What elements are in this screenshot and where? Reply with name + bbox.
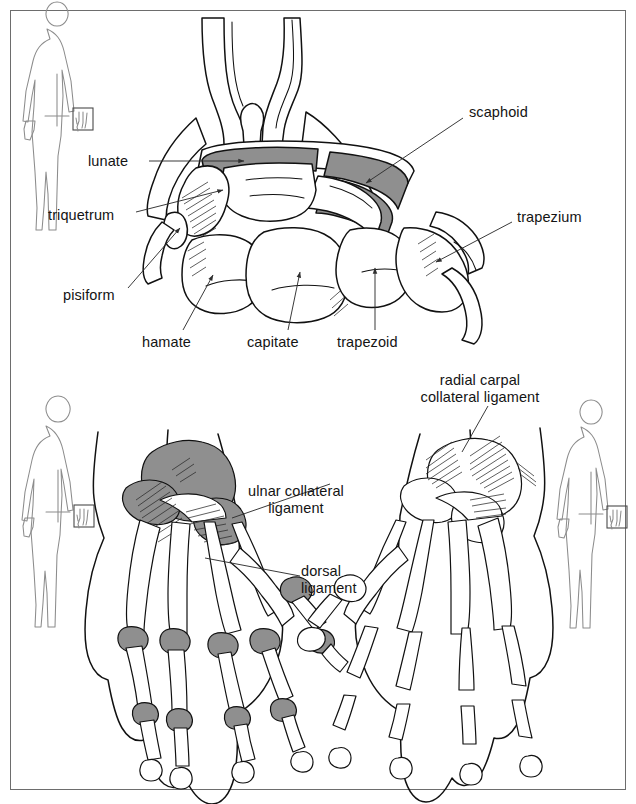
label-dorsal-ligament: dorsal ligament [301,563,357,597]
locator-hand-highlight [607,506,627,529]
label-line-1: radial carpal [395,372,565,389]
label-pisiform: pisiform [63,287,115,304]
locator-figure-mid-right [557,400,627,628]
label-line-1: ulnar collateral [248,483,344,500]
label-radial-carpal-collateral-ligament: radial carpal collateral ligament [395,372,565,406]
label-trapezium: trapezium [517,209,582,226]
label-line-2: ligament [248,500,344,517]
label-line-2: ligament [301,580,357,597]
label-line-2: collateral ligament [395,389,565,406]
label-scaphoid: scaphoid [469,104,528,121]
label-triquetrum: triquetrum [48,207,114,224]
carpal-section-illustration [128,18,512,344]
locator-hand-highlight [73,108,93,131]
anatomical-figure: lunate triquetrum pisiform hamate capita… [0,0,636,804]
label-lunate: lunate [88,153,128,170]
label-capitate: capitate [247,334,299,351]
label-trapezoid: trapezoid [337,334,398,351]
locator-figure-mid-left [22,396,94,627]
label-line-1: dorsal [301,563,357,580]
locator-figure-top-left [23,2,93,230]
label-ulnar-collateral-ligament: ulnar collateral ligament [248,483,344,517]
label-hamate: hamate [142,334,191,351]
locator-hand-highlight [74,505,94,528]
